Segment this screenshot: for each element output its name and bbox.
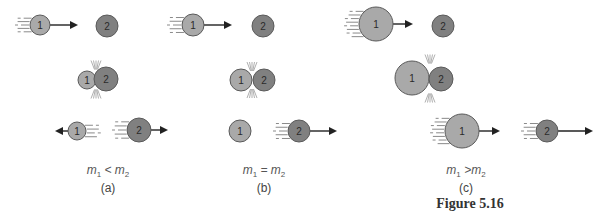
mass-symbol: m [115, 163, 125, 177]
mass-symbol: m [87, 163, 97, 177]
ball-1: 1 [182, 14, 204, 36]
ball-2: 2 [288, 120, 310, 142]
collision-diagram: 121212121212121212 [0, 0, 599, 214]
ball-number: 2 [104, 21, 110, 32]
balls-layer: 121212121212121212 [30, 7, 558, 148]
subscript: 1 [456, 170, 460, 179]
velocity-arrows-layer [50, 24, 591, 131]
ball-2: 2 [94, 67, 118, 91]
ball-number: 1 [238, 75, 244, 86]
ball-number: 1 [237, 126, 243, 137]
figure-title: Figure 5.16 [436, 196, 503, 212]
ball-number: 2 [103, 74, 109, 85]
ball-1: 1 [445, 114, 479, 148]
operator: = [260, 163, 267, 177]
ball-number: 1 [190, 20, 196, 31]
ball-1: 1 [230, 69, 252, 91]
ball-1: 1 [30, 15, 50, 35]
ball-1: 1 [78, 71, 96, 89]
ball-2: 2 [429, 67, 453, 91]
ball-number: 2 [438, 74, 444, 85]
ball-1: 1 [359, 7, 393, 41]
ball-1: 1 [395, 61, 429, 95]
ball-number: 1 [37, 20, 43, 31]
ball-number: 2 [440, 21, 446, 32]
subscript: 2 [281, 170, 285, 179]
ball-number: 1 [373, 19, 379, 30]
relation-label-b: m1 = m2 [243, 163, 286, 179]
ball-2: 2 [127, 118, 151, 142]
ball-number: 2 [544, 126, 550, 137]
operator: < [104, 163, 111, 177]
relation-label-a: m1 < m2 [87, 163, 130, 179]
subscript: 2 [125, 170, 129, 179]
ball-2: 2 [536, 120, 558, 142]
ball-2: 2 [253, 69, 275, 91]
subscript: 1 [97, 170, 101, 179]
ball-2: 2 [252, 15, 274, 37]
ball-1: 1 [229, 120, 251, 142]
mass-symbol: m [446, 163, 456, 177]
ball-number: 2 [261, 75, 267, 86]
ball-number: 2 [296, 126, 302, 137]
part-label-a: (a) [101, 181, 116, 195]
ball-2: 2 [96, 15, 118, 37]
operator: > [464, 163, 471, 177]
ball-number: 1 [459, 126, 465, 137]
ball-number: 1 [84, 75, 90, 86]
part-label-b: (b) [257, 181, 272, 195]
ball-number: 1 [74, 126, 80, 137]
ball-2: 2 [432, 15, 454, 37]
ball-number: 2 [260, 21, 266, 32]
mass-symbol: m [243, 163, 253, 177]
ball-number: 1 [409, 73, 415, 84]
part-label-c: (c) [459, 181, 473, 195]
subscript: 2 [481, 170, 485, 179]
relation-label-c: m1 >m2 [446, 163, 485, 179]
mass-symbol: m [271, 163, 281, 177]
subscript: 1 [253, 170, 257, 179]
ball-number: 2 [136, 125, 142, 136]
ball-1: 1 [68, 122, 86, 140]
mass-symbol: m [471, 163, 481, 177]
